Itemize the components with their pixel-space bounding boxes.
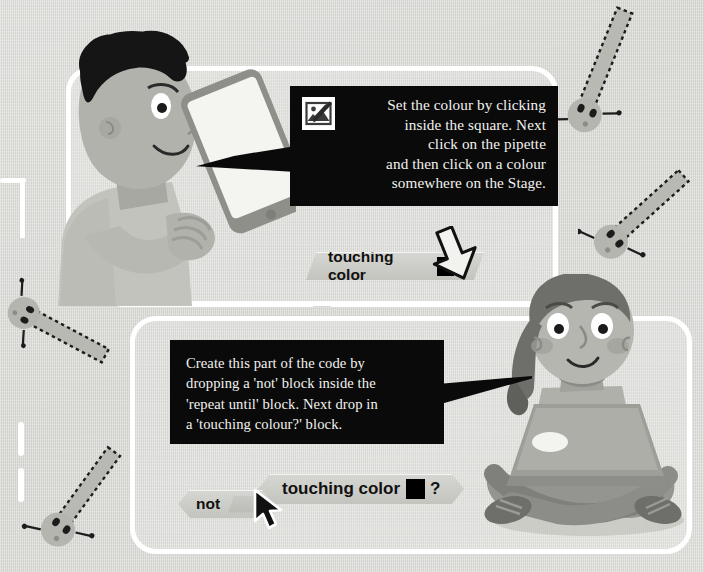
color-swatch-bottom[interactable] [406,479,425,499]
bottom-callout-text: Create this part of the code by dropping… [186,353,428,435]
touching-color-block-bottom[interactable]: touching color ? [258,474,464,504]
not-block-label: not [196,495,220,513]
microbe-left-middle-icon [0,276,120,396]
microbe-top-right-icon [556,4,666,144]
top-callout-text: Set the colour by clicking inside the sq… [302,95,546,193]
microbe-bottom-left-icon [18,442,148,572]
bottom-callout-line4: a 'touching colour?' block. [186,416,342,432]
bottom-callout-line1: Create this part of the code by [186,355,365,371]
bottom-callout-line2: dropping a 'not' block inside the [186,375,376,391]
top-callout-line1: Set the colour by clicking [387,96,546,113]
guide-dash-left-2 [20,178,25,238]
question-mark-bottom: ? [430,479,440,499]
top-instruction-callout: Set the colour by clicking inside the sq… [290,86,558,206]
touching-color-label-bottom: touching color [282,479,400,499]
top-callout-line3: click on the pipette [428,135,546,152]
hand-pointer-down-cursor-icon [428,226,488,282]
bottom-callout-line3: 'repeat until' block. Next drop in [186,396,378,412]
arrow-pointer-cursor-icon [252,488,286,532]
pipette-icon [302,97,335,130]
top-callout-line5: somewhere on the Stage. [392,174,546,191]
top-callout-line4: and then click on a colour [386,155,546,172]
top-callout-line2: inside the square. Next [405,116,546,133]
bottom-instruction-callout: Create this part of the code by dropping… [170,340,444,444]
microbe-right-upper-icon [578,160,704,290]
pipette-icon-wrap [302,97,335,130]
touching-color-label-top: touching color [328,248,431,284]
